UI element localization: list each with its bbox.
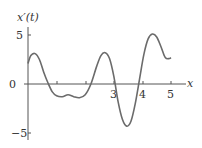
chart-canvas: x′(t) 5 0 −5 3 4 5 x <box>0 0 202 148</box>
y-axis-title: x′(t) <box>17 11 39 24</box>
y-tick-label-neg5: −5 <box>11 127 27 140</box>
y-tick-label-5: 5 <box>16 29 23 42</box>
y-tick-label-0: 0 <box>9 78 16 91</box>
curve-x-prime <box>28 34 171 126</box>
x-axis-title: x <box>187 77 194 90</box>
x-tick-label-5: 5 <box>167 88 174 101</box>
x-tick-label-4: 4 <box>139 88 146 101</box>
